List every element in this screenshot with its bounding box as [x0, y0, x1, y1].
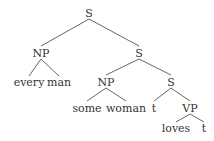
tree-edge	[41, 59, 59, 76]
tree-edge	[154, 88, 171, 101]
tree-edge	[41, 19, 89, 46]
syntax-tree: S NP every man S NP some woman S t VP lo…	[0, 0, 214, 141]
tree-edge	[29, 59, 41, 76]
tree-edges	[0, 0, 214, 141]
node-s-root: S	[85, 8, 93, 19]
tree-edge	[106, 59, 139, 75]
leaf-every: every	[14, 77, 45, 88]
leaf-some: some	[72, 103, 101, 114]
tree-edge	[87, 88, 106, 101]
tree-edge	[139, 59, 171, 75]
leaf-trace-object: t	[202, 123, 206, 134]
leaf-trace-subject: t	[152, 103, 156, 114]
tree-edge	[89, 19, 139, 46]
leaf-loves: loves	[162, 123, 191, 134]
node-np-some-woman: NP	[97, 77, 114, 88]
tree-edge	[106, 88, 126, 101]
node-s-third: S	[167, 77, 175, 88]
node-s-second: S	[135, 48, 143, 59]
tree-edge	[171, 88, 190, 101]
leaf-woman: woman	[106, 103, 146, 114]
node-np-every-man: NP	[32, 48, 49, 59]
node-vp: VP	[182, 103, 197, 114]
leaf-man: man	[47, 77, 71, 88]
